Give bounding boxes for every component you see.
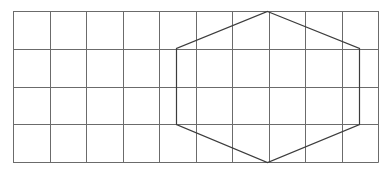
diagram-canvas: [0, 0, 386, 170]
background: [0, 0, 386, 170]
